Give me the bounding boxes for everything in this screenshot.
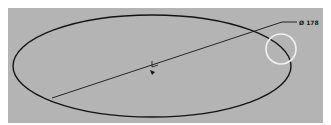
diameter-dimension-line[interactable]: [52, 22, 282, 98]
diameter-dimension-label[interactable]: Ø 178: [299, 19, 319, 26]
selection-highlight-circle: [266, 34, 296, 64]
sketch-drawing: Ø 178: [0, 0, 331, 125]
